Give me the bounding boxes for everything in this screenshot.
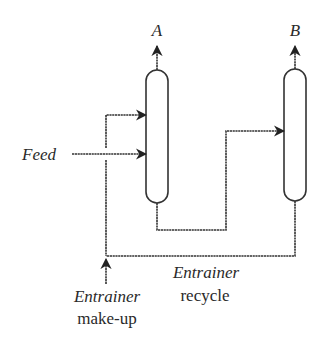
column-b-label: B	[290, 21, 301, 40]
column-a-label: A	[151, 21, 163, 40]
makeup-label-line1: Entrainer	[73, 287, 140, 306]
entrainer-recycle-line	[106, 201, 295, 256]
entrainer-feed-line	[106, 115, 146, 148]
a-bottoms-to-b-line	[157, 131, 284, 230]
process-diagram: A B Feed Entrainer recycle Entrainer mak…	[0, 0, 326, 344]
column-a	[146, 70, 168, 203]
feed-label: Feed	[21, 145, 56, 164]
makeup-label-line2: make-up	[77, 309, 136, 328]
column-b	[284, 69, 306, 201]
recycle-label-line2: recycle	[180, 286, 229, 305]
recycle-label-line1: Entrainer	[172, 263, 239, 282]
